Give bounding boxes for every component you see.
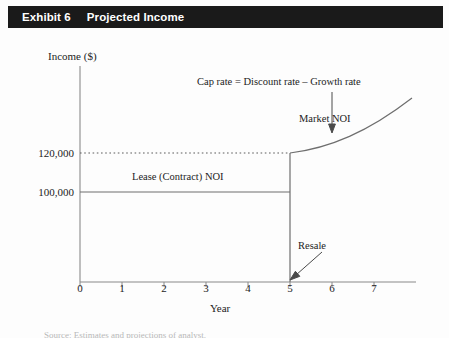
x-tick-label-3: 3: [196, 282, 216, 294]
exhibit-number: Exhibit 6: [22, 11, 71, 23]
exhibit-figure: Exhibit 6 Projected Income: [0, 0, 449, 338]
x-tick-label-6: 6: [322, 282, 342, 294]
series-label-lease-contract-noi: Lease (Contract) NOI: [132, 171, 224, 182]
source-footnote: Source: Estimates and projections of ana…: [44, 330, 206, 338]
exhibit-header: Exhibit 6 Projected Income: [8, 6, 443, 28]
x-tick-label-5: 5: [280, 282, 300, 294]
x-tick-label-0: 0: [70, 282, 90, 294]
series-label-market-noi: Market NOI: [299, 113, 351, 124]
annotation-cap-rate-formula: Cap rate = Discount rate – Growth rate: [197, 76, 361, 87]
y-axis-title: Income ($): [48, 50, 97, 62]
x-tick-label-7: 7: [364, 282, 384, 294]
exhibit-title: Projected Income: [87, 11, 184, 23]
x-tick-label-1: 1: [112, 282, 132, 294]
x-tick-label-2: 2: [154, 282, 174, 294]
chart-plot-area: Income ($) Year 120,000 100,000 0 1 2 3 …: [0, 30, 449, 338]
y-tick-label-100000: 100,000: [20, 186, 74, 198]
annotation-resale: Resale: [298, 240, 326, 251]
market-noi-curve: [290, 98, 412, 153]
y-tick-label-120000: 120,000: [20, 147, 74, 159]
x-tick-label-4: 4: [238, 282, 258, 294]
resale-arrow: [290, 252, 322, 280]
x-axis-title: Year: [210, 302, 230, 314]
